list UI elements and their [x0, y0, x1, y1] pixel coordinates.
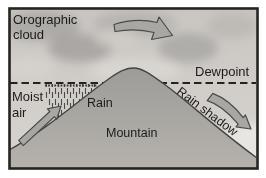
label-rain: Rain: [87, 96, 113, 110]
label-dewpoint: Dewpoint: [195, 64, 250, 79]
label-orographic-cloud-line1: Orographic: [13, 12, 78, 27]
figure: Orographic cloud Dewpoint Moist air Rain…: [0, 0, 266, 178]
label-mountain: Mountain: [106, 126, 157, 140]
orographic-rainfall-diagram: Orographic cloud Dewpoint Moist air Rain…: [0, 0, 266, 178]
label-orographic-cloud-line2: cloud: [13, 27, 44, 42]
label-moist-air-line2: air: [12, 105, 27, 120]
label-moist-air-line1: Moist: [12, 89, 43, 104]
